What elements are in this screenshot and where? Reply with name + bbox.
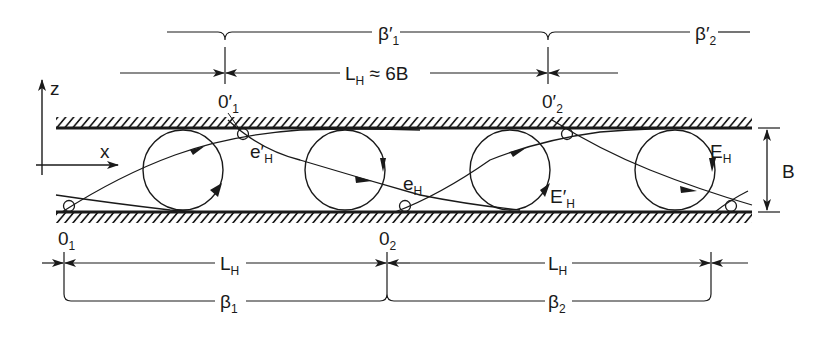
point-0-prime-2: 0′2 <box>542 91 563 116</box>
z-axis-label: z <box>50 78 60 99</box>
bottom-wall <box>56 212 752 223</box>
top-wall <box>56 117 752 128</box>
x-axis-label: x <box>100 141 110 162</box>
vortex-cell-2 <box>305 130 386 210</box>
vortex-channel-diagram: z x <box>0 0 826 337</box>
point-0-2: 02 <box>379 228 397 253</box>
beta-prime-2-label: β′2 <box>695 23 717 48</box>
point-0-prime-1: 0′1 <box>218 91 239 116</box>
bottom-dimension: LH LH <box>42 252 748 294</box>
bottom-dimension-label-2: LH <box>548 253 567 278</box>
label-E-prime-h: E′H <box>550 186 575 211</box>
stagnation-point-top-1 <box>238 129 249 140</box>
top-brace: β′1 β′2 <box>167 23 750 48</box>
gap-dimension: B <box>758 128 795 212</box>
top-dimension: LH ≈ 6B <box>120 47 618 88</box>
beta-prime-1-label: β′1 <box>378 23 400 48</box>
label-e-prime-h: e′H <box>250 141 273 166</box>
label-e-h: eH <box>403 173 422 198</box>
vortex-cell-1 <box>143 130 223 210</box>
x-axis: x <box>36 141 118 165</box>
gap-label: B <box>782 161 795 182</box>
beta-2-label: β2 <box>548 291 566 316</box>
bottom-dimension-label-1: LH <box>220 253 239 278</box>
vortex-cell-4 <box>635 130 716 210</box>
top-dimension-label: LH ≈ 6B <box>345 63 408 88</box>
stagnation-point-bottom-3 <box>726 201 737 212</box>
vortex-cell-3 <box>470 130 550 210</box>
point-0-1: 01 <box>58 228 76 253</box>
rotation-arrow-icon <box>210 183 222 197</box>
stagnation-point-bottom-1 <box>64 201 75 212</box>
bottom-brace: β1 β2 <box>64 291 711 316</box>
beta-1-label: β1 <box>220 291 238 316</box>
